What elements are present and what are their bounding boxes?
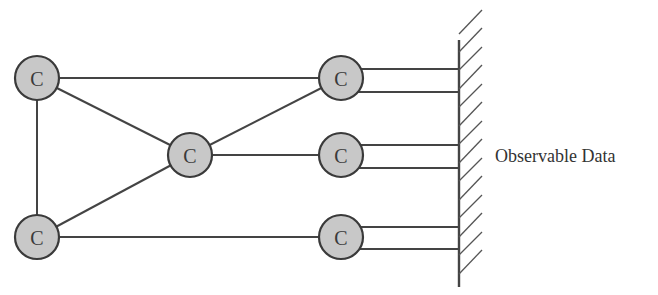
node-n4: C [319,56,363,100]
edge-n2-n3 [37,155,190,237]
node-label: C [334,68,347,90]
observable-boundary-wall [459,10,482,287]
edge-n3-n4 [190,78,341,155]
node-label: C [30,227,43,249]
node-n2: C [15,215,59,259]
wall-hatching [459,10,482,274]
node-n6: C [319,215,363,259]
output-connections [356,69,459,249]
node-label: C [334,145,347,167]
node-n5: C [319,133,363,177]
node-label: C [334,227,347,249]
node-label: C [30,68,43,90]
node-label: C [183,145,196,167]
node-n1: C [15,56,59,100]
node-n3: C [168,133,212,177]
observable-data-label: Observable Data [495,146,615,167]
edge-n1-n3 [37,78,190,155]
